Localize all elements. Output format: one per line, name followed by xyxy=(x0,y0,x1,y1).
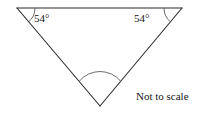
angle-arc-bottom-icon xyxy=(79,72,121,82)
not-to-scale-note: Not to scale xyxy=(136,90,189,103)
angle-arc-top-right-icon xyxy=(164,8,171,22)
angle-label-top-right: 54° xyxy=(134,12,149,24)
angle-label-top-left: 54° xyxy=(34,12,49,24)
triangle-angle-diagram: 54° 54° Not to scale xyxy=(0,0,206,114)
triangle-left-edge xyxy=(17,8,100,106)
